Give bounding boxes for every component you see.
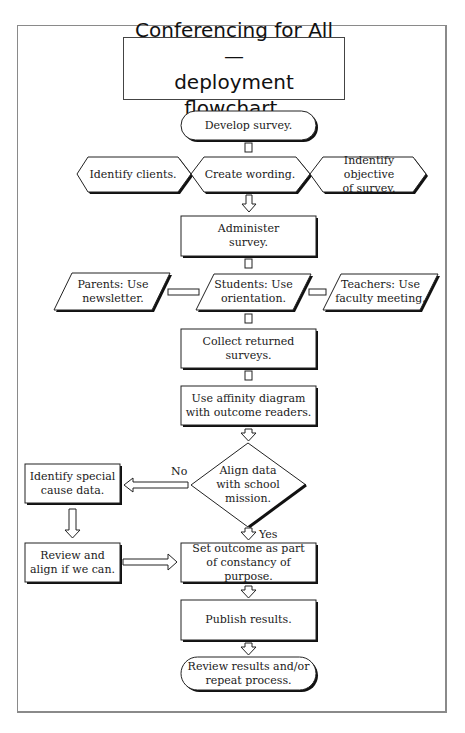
left-arrow-icon bbox=[124, 478, 188, 492]
yes-edge-label: Yes bbox=[259, 528, 277, 541]
collect-label: Collect returned surveys. bbox=[181, 329, 316, 368]
no-edge-label: No bbox=[171, 465, 187, 478]
decision-label: Align data with school mission. bbox=[203, 460, 293, 510]
special-cause-label: Identify special cause data. bbox=[25, 464, 120, 503]
administer-label: Administer survey. bbox=[181, 216, 316, 256]
affinity-label: Use affinity diagram with outcome reader… bbox=[181, 386, 316, 425]
connector-icon bbox=[245, 314, 252, 323]
identify-objective-label: Indentify objective of survey. bbox=[318, 157, 420, 192]
down-arrow-icon bbox=[242, 195, 256, 212]
down-arrow-icon bbox=[241, 429, 256, 441]
teachers-label: Teachers: Use faculty meeting. bbox=[331, 274, 430, 310]
identify-clients-label: Identify clients. bbox=[88, 157, 178, 192]
down-arrow-icon bbox=[241, 586, 256, 598]
link-bar-icon bbox=[309, 289, 326, 295]
review-align-label: Review and align if we can. bbox=[25, 543, 120, 582]
right-arrow-icon bbox=[123, 554, 177, 570]
develop-survey-label: Develop survey. bbox=[181, 111, 316, 140]
link-bar-icon bbox=[168, 289, 199, 295]
parents-label: Parents: Use newsletter. bbox=[64, 273, 162, 310]
down-arrow-icon bbox=[241, 643, 256, 655]
down-arrow-icon bbox=[241, 528, 256, 540]
set-outcome-label: Set outcome as part of constancy of purp… bbox=[181, 543, 316, 582]
connector-icon bbox=[245, 371, 252, 380]
students-label: Students: Use orientation. bbox=[205, 274, 302, 310]
review-repeat-label: Review results and/or repeat process. bbox=[181, 657, 316, 690]
create-wording-label: Create wording. bbox=[204, 157, 296, 192]
publish-label: Publish results. bbox=[181, 600, 316, 640]
connector-icon bbox=[245, 143, 252, 152]
connector-icon bbox=[245, 259, 252, 268]
down-arrow-icon bbox=[65, 509, 80, 538]
